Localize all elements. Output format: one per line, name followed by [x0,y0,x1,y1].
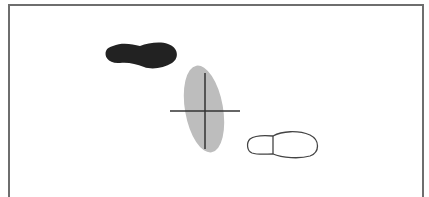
crosshair-icon [170,73,240,149]
gray-ellipse-shape [178,62,231,155]
outlined-footprint-icon [248,132,318,158]
footprint-diagram [0,0,429,197]
filled-footprint-icon [106,43,177,69]
